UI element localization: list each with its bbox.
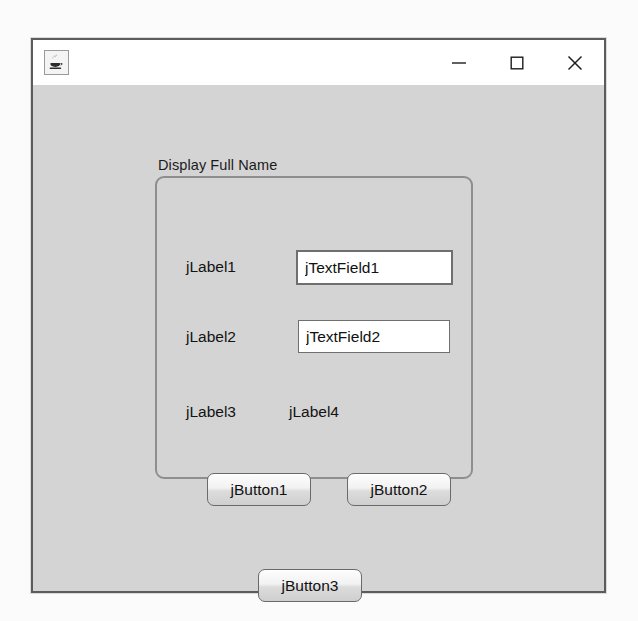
jbutton2[interactable]: jButton2 — [347, 473, 451, 506]
maximize-icon — [508, 54, 526, 72]
close-button[interactable] — [546, 40, 604, 85]
jtextfield1[interactable] — [296, 250, 453, 285]
jbutton1[interactable]: jButton1 — [207, 473, 311, 506]
jlabel2: jLabel2 — [186, 328, 236, 346]
jlabel4: jLabel4 — [289, 403, 339, 421]
client-area: Display Full Name jLabel1 jLabel2 jLabel… — [33, 85, 604, 591]
java-coffee-cup-icon — [44, 50, 69, 75]
jlabel1: jLabel1 — [186, 258, 236, 276]
close-icon — [565, 53, 585, 73]
jbutton3[interactable]: jButton3 — [258, 569, 362, 602]
minimize-icon — [450, 54, 468, 72]
panel-title-label: Display Full Name — [158, 157, 277, 173]
window-controls — [430, 40, 604, 85]
maximize-button[interactable] — [488, 40, 546, 85]
jlabel3: jLabel3 — [186, 403, 236, 421]
jtextfield2[interactable] — [298, 320, 450, 353]
minimize-button[interactable] — [430, 40, 488, 85]
title-bar — [33, 40, 604, 85]
application-window: Display Full Name jLabel1 jLabel2 jLabel… — [31, 38, 606, 593]
